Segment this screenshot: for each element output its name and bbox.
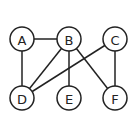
node-label: F [111,92,118,107]
node-a: A [10,27,34,51]
node-d: D [10,86,34,110]
node-e: E [57,86,81,110]
node-label: D [17,92,27,107]
node-label: A [18,33,27,48]
node-c: C [103,27,127,51]
node-label: E [65,92,73,107]
node-label: B [65,33,74,48]
node-b: B [57,27,81,51]
node-f: F [103,86,127,110]
graph-diagram: ABCDEF [0,0,134,126]
node-label: C [110,33,119,48]
